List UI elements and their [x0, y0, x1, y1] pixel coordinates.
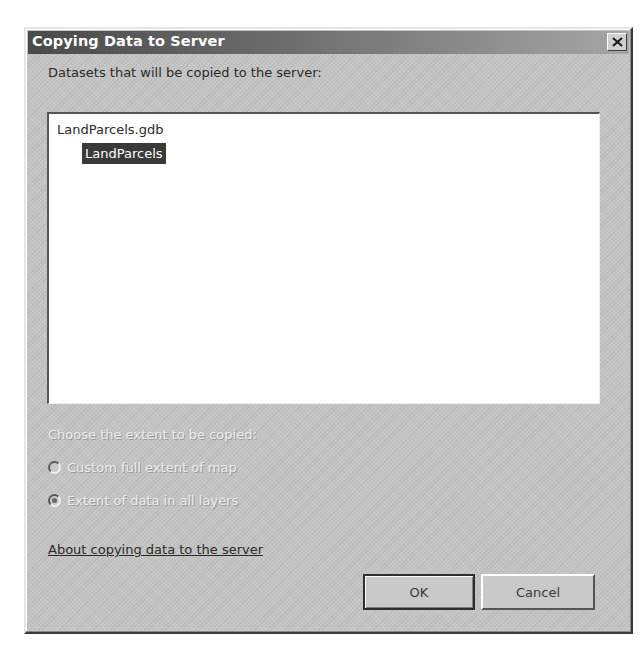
ok-button[interactable]: OK — [363, 574, 475, 610]
tree-item-landparcels-selected[interactable]: LandParcels — [82, 143, 166, 164]
close-button[interactable] — [607, 33, 627, 51]
datasets-label: Datasets that will be copied to the serv… — [48, 65, 322, 80]
dialog-title: Copying Data to Server — [32, 33, 225, 49]
radio-unchecked-icon[interactable] — [48, 461, 61, 474]
radio-extent-all-layers[interactable]: Extent of data in all layers — [48, 493, 238, 508]
title-bar[interactable]: Copying Data to Server — [28, 31, 629, 54]
radio-checked-icon[interactable] — [48, 494, 61, 507]
dataset-tree[interactable]: LandParcels.gdb LandParcels — [47, 112, 600, 404]
tree-item-gdb[interactable]: LandParcels.gdb — [54, 120, 166, 139]
close-icon — [612, 37, 623, 47]
radio-custom-full-extent[interactable]: Custom full extent of map — [48, 460, 237, 475]
copying-data-dialog: Copying Data to Server Datasets that wil… — [24, 27, 633, 634]
about-copying-link[interactable]: About copying data to the server — [48, 542, 263, 557]
cancel-button[interactable]: Cancel — [481, 574, 595, 610]
extent-label: Choose the extent to be copied: — [48, 427, 257, 442]
radio-label: Extent of data in all layers — [67, 493, 238, 508]
radio-label: Custom full extent of map — [67, 460, 237, 475]
